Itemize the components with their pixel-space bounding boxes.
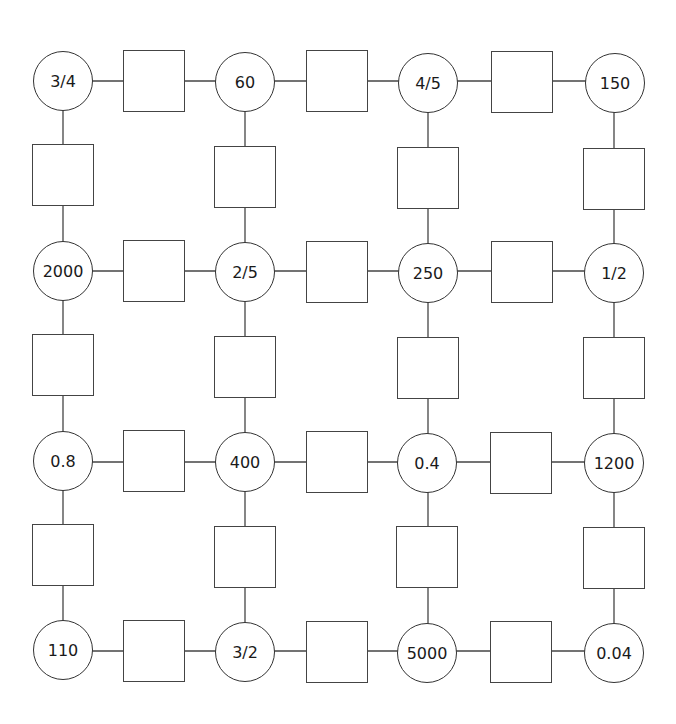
answer-box-c2-v2[interactable] — [396, 526, 458, 588]
answer-box-c1-v0[interactable] — [214, 146, 276, 208]
answer-box-c3-v1[interactable] — [583, 337, 645, 399]
answer-box-r2-h1[interactable] — [306, 431, 368, 493]
answer-box-c3-v2[interactable] — [583, 527, 645, 589]
node-r1-c2: 250 — [398, 243, 458, 303]
answer-box-r2-h2[interactable] — [490, 432, 552, 494]
answer-box-c0-v1[interactable] — [32, 334, 94, 396]
answer-box-c1-v1[interactable] — [214, 336, 276, 398]
node-r0-c0: 3/4 — [33, 51, 93, 111]
node-r3-c3: 0.04 — [584, 623, 644, 683]
node-r3-c1: 3/2 — [215, 622, 275, 682]
answer-box-r0-h2[interactable] — [491, 51, 553, 113]
answer-box-r3-h2[interactable] — [490, 621, 552, 683]
answer-box-r0-h1[interactable] — [306, 50, 368, 112]
node-r0-c3: 150 — [585, 53, 645, 113]
node-r1-c0: 2000 — [33, 241, 93, 301]
answer-box-c2-v1[interactable] — [397, 337, 459, 399]
node-r1-c3: 1/2 — [584, 243, 644, 303]
node-r2-c0: 0.8 — [33, 431, 93, 491]
answer-box-r1-h0[interactable] — [123, 240, 185, 302]
answer-box-r0-h0[interactable] — [123, 50, 185, 112]
answer-box-c3-v0[interactable] — [583, 148, 645, 210]
node-r0-c1: 60 — [215, 52, 275, 112]
answer-box-r1-h2[interactable] — [491, 241, 553, 303]
node-r2-c3: 1200 — [584, 433, 644, 493]
answer-box-r1-h1[interactable] — [306, 241, 368, 303]
node-r3-c2: 5000 — [397, 623, 457, 683]
node-r3-c0: 110 — [33, 620, 93, 680]
answer-box-r3-h1[interactable] — [306, 621, 368, 683]
answer-box-c2-v0[interactable] — [397, 147, 459, 209]
answer-box-c0-v2[interactable] — [32, 524, 94, 586]
answer-box-r3-h0[interactable] — [123, 620, 185, 682]
node-r1-c1: 2/5 — [215, 242, 275, 302]
answer-box-r2-h0[interactable] — [123, 430, 185, 492]
node-r2-c1: 400 — [215, 432, 275, 492]
node-r0-c2: 4/5 — [398, 53, 458, 113]
answer-box-c1-v2[interactable] — [214, 526, 276, 588]
answer-box-c0-v0[interactable] — [32, 144, 94, 206]
node-r2-c2: 0.4 — [397, 433, 457, 493]
